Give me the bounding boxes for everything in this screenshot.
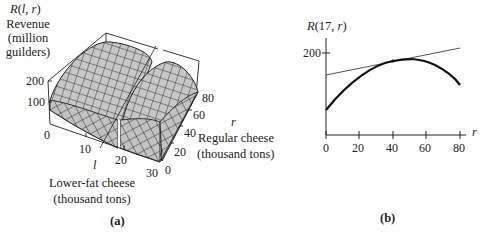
r-axis-title-line-2: (thousand tons): [197, 147, 274, 161]
r-tick-20: 20: [174, 146, 186, 158]
z-tick-100: 100: [27, 96, 45, 108]
z-axis-function-label: R(l, r): [10, 2, 41, 16]
panel-label-b: (b): [380, 211, 395, 226]
line-plot-graphic: [290, 0, 480, 238]
y-axis-label: R(17, r): [307, 19, 347, 33]
tangent-point: [391, 59, 394, 62]
x-axis-label: r: [472, 125, 477, 139]
y-tick-200: 200: [303, 47, 321, 59]
l-axis-title-line-1: Lower-fat cheese: [42, 176, 142, 190]
l-tick-10: 10: [79, 143, 91, 155]
r-tick-80: 80: [202, 92, 214, 104]
r-tick-60: 60: [193, 109, 205, 121]
z-axis-title-line-1: Revenue: [4, 17, 52, 31]
x-tick-40: 40: [386, 142, 398, 154]
x-tick-0: 0: [323, 142, 329, 154]
r-tick-0: 0: [165, 164, 171, 176]
x-tick-20: 20: [352, 142, 364, 154]
revenue-curve: [326, 59, 460, 110]
plot-axes: [322, 38, 466, 139]
r-axis-symbol: r: [231, 115, 236, 129]
z-tick-200: 200: [26, 75, 44, 87]
r-axis-title-line-1: Regular cheese: [198, 131, 274, 145]
z-axis-title-line-2: (million: [4, 31, 52, 45]
panel-label-a: (a): [110, 214, 125, 229]
x-tick-60: 60: [419, 142, 431, 154]
z-axis-title-line-3: guilders): [4, 45, 52, 59]
x-tick-80: 80: [453, 142, 465, 154]
l-axis-symbol: l: [93, 158, 96, 172]
figure-b-line-plot: R(17, r) 200 0 20 40 60 80 r (b): [290, 0, 480, 238]
cut-plane-gap: [118, 120, 120, 150]
r-tick-40: 40: [184, 127, 196, 139]
l-tick-30: 30: [146, 167, 158, 179]
l-tick-20: 20: [115, 154, 127, 166]
l-axis-title-line-2: (thousand tons): [42, 192, 142, 206]
figure-a-surface-plot: R(l, r) Revenue (million guilders) 200 1…: [0, 0, 250, 238]
y-axis-label-text: R(17, r): [307, 19, 347, 33]
z-tick-0: 0: [44, 129, 50, 141]
